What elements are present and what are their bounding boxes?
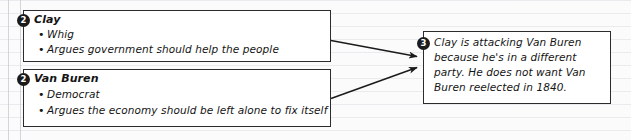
conclusion-box-number-badge: 3 [417,37,430,50]
margin-rule-left-outer [8,0,9,140]
van-buren-box-number-badge: 2 [17,73,30,86]
clay-bullet-1: •Argues government should help the peopl… [38,43,279,56]
clay-bullet-0: •Whig [38,28,74,41]
bullet-glyph-icon: • [38,43,47,56]
clay-bullet-0-text: Whig [47,28,74,40]
arrow-vanburen-to-conclusion [331,68,417,99]
van-buren-bullet-1-text: Argues the economy should be left alone … [47,104,327,116]
van-buren-box-title: Van Buren [34,72,99,85]
arrow-clay-to-conclusion [331,41,417,57]
bullet-glyph-icon: • [38,104,47,117]
van-buren-bullet-0-text: Democrat [47,88,100,100]
conclusion-line-3: Buren reelected in 1840. [434,81,567,93]
bullet-glyph-icon: • [38,28,47,41]
conclusion-line-1: because he's in a different [434,51,576,63]
bullet-glyph-icon: • [38,88,47,101]
conclusion-line-2: party. He does not want Van [434,66,586,78]
van-buren-bullet-0: •Democrat [38,88,100,101]
clay-box-title: Clay [34,13,61,26]
van-buren-bullet-1: •Argues the economy should be left alone… [38,104,327,117]
clay-box-number-badge: 2 [17,14,30,27]
notes-diagram-page: 2 Clay •Whig •Argues government should h… [0,0,631,140]
clay-bullet-1-text: Argues government should help the people [47,43,279,55]
conclusion-line-0: Clay is attacking Van Buren [434,36,581,48]
